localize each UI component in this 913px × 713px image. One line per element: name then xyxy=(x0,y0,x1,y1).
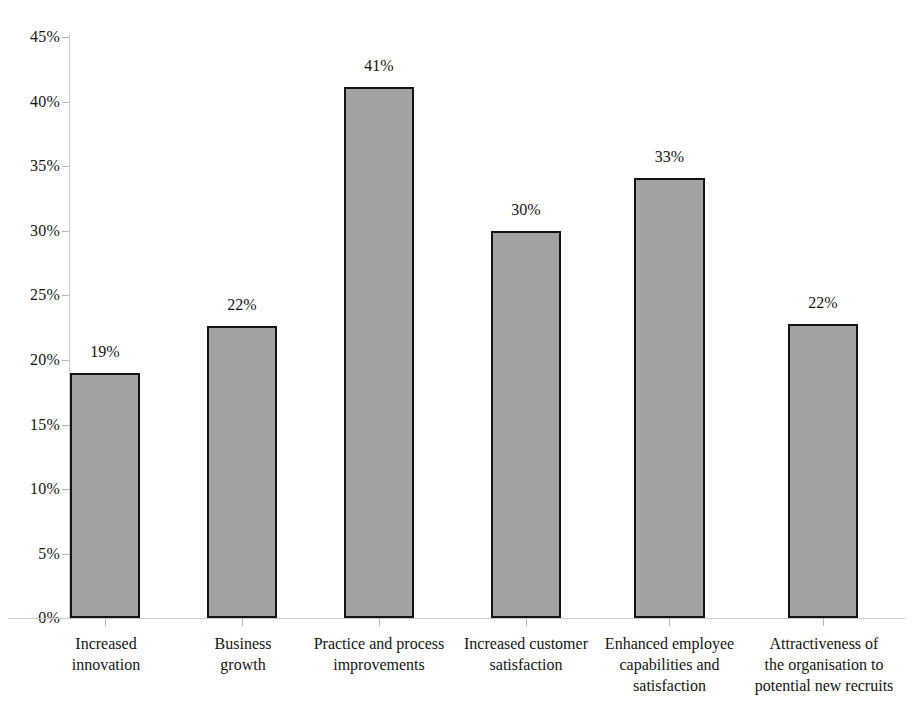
bar-value-label: 41% xyxy=(344,58,414,74)
y-axis-tick-label: 35% xyxy=(4,158,60,174)
category-label-line: satisfaction xyxy=(591,675,748,696)
category-label-line: capabilities and xyxy=(591,654,748,675)
y-axis-tick-label: 10% xyxy=(4,481,60,497)
category-label-enhanced-employee-capabilities: Enhanced employee capabilities and satis… xyxy=(591,633,748,696)
category-label-line: Attractiveness of xyxy=(738,633,910,654)
bar-increased-customer-satisfaction[interactable] xyxy=(491,231,561,618)
category-label-line: growth xyxy=(172,654,314,675)
y-tick-mark xyxy=(62,554,69,555)
category-label-line: the organisation to xyxy=(738,654,910,675)
bar-chart: 45% 40% 35% 30% 25% 20% 15% 10% 5% 0% xyxy=(0,0,913,713)
y-axis-tick-label: 30% xyxy=(4,223,60,239)
bar-value-label: 33% xyxy=(634,149,705,165)
y-tick-mark xyxy=(62,102,69,103)
y-tick-mark xyxy=(62,425,69,426)
category-label-attractiveness-of-the-organisation: Attractiveness of the organisation to po… xyxy=(738,633,910,696)
category-label-line: potential new recruits xyxy=(738,675,910,696)
y-axis-tick-label: 5% xyxy=(4,546,60,562)
bar-business-growth[interactable] xyxy=(207,326,277,618)
category-label-practice-and-process-improvements: Practice and process improvements xyxy=(299,633,459,675)
y-axis-tick-label: 45% xyxy=(4,29,60,45)
bar-attractiveness-of-the-organisation[interactable] xyxy=(788,324,858,618)
category-label-line: Business xyxy=(172,633,314,654)
y-tick-mark xyxy=(62,231,69,232)
category-label-line: satisfaction xyxy=(448,654,604,675)
category-label-line: improvements xyxy=(299,654,459,675)
bar-value-label: 22% xyxy=(207,297,277,313)
bar-practice-and-process-improvements[interactable] xyxy=(344,87,414,618)
bar-increased-innovation[interactable] xyxy=(70,373,140,618)
category-label-increased-innovation: Increased innovation xyxy=(35,633,177,675)
category-label-line: Increased xyxy=(35,633,177,654)
bar-value-label: 30% xyxy=(491,202,561,218)
category-label-business-growth: Business growth xyxy=(172,633,314,675)
x-tick-mark xyxy=(105,619,106,626)
y-tick-mark xyxy=(62,360,69,361)
category-label-line: Increased customer xyxy=(448,633,604,654)
y-tick-mark xyxy=(62,166,69,167)
y-axis-tick-label: 20% xyxy=(4,352,60,368)
y-axis-tick-label: 25% xyxy=(4,287,60,303)
y-tick-mark xyxy=(62,295,69,296)
category-label-line: Practice and process xyxy=(299,633,459,654)
bar-enhanced-employee-capabilities-and-satisfaction[interactable] xyxy=(634,178,705,618)
category-label-line: Enhanced employee xyxy=(591,633,748,654)
y-tick-mark xyxy=(62,489,69,490)
x-axis-line xyxy=(8,618,905,619)
category-label-line: innovation xyxy=(35,654,177,675)
category-label-increased-customer-satisfaction: Increased customer satisfaction xyxy=(448,633,604,675)
x-tick-mark xyxy=(526,619,527,626)
y-axis-tick-label: 40% xyxy=(4,94,60,110)
x-tick-mark xyxy=(379,619,380,626)
x-tick-mark xyxy=(242,619,243,626)
x-tick-mark xyxy=(823,619,824,626)
y-axis-tick-label: 15% xyxy=(4,417,60,433)
bar-value-label: 22% xyxy=(788,295,858,311)
x-tick-mark xyxy=(669,619,670,626)
y-tick-mark xyxy=(62,37,69,38)
bar-value-label: 19% xyxy=(70,344,140,360)
